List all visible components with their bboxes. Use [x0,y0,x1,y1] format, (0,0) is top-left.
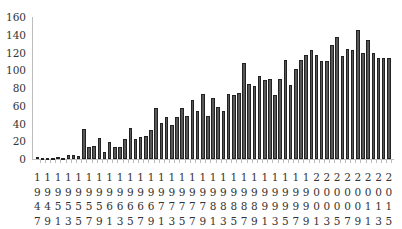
x-tick-mark [117,160,118,163]
bar-2014 [382,58,386,159]
y-tick-label: 160 [0,12,26,22]
bar-1997 [294,69,298,159]
y-tick-label: 0 [0,154,26,164]
x-tick-label: 2 0 1 1 [363,170,373,228]
x-tick-mark [252,160,253,163]
bar-1957 [87,147,91,159]
x-tick-mark [159,160,160,163]
bar-1973 [170,125,174,159]
x-tick-mark [128,160,129,163]
x-tick-mark [366,160,367,163]
x-tick-mark [205,160,206,163]
bar-1972 [165,117,169,159]
x-tick-mark [164,160,165,163]
bar-1996 [289,85,293,159]
x-tick-label: 1 9 9 3 [270,170,280,228]
x-tick-label: 1 9 4 9 [43,170,53,228]
bar-1956 [82,129,86,159]
x-tick-mark [107,160,108,163]
bar-1961 [108,142,112,159]
bar-1970 [154,108,158,159]
bar-2015 [387,58,391,159]
x-tick-mark [45,160,46,163]
bar-1983 [222,111,226,159]
x-tick-label: 1 9 6 7 [136,170,146,228]
x-tick-mark [355,160,356,163]
bar-1994 [278,79,282,159]
bar-2009 [356,30,360,159]
bar-1962 [113,147,117,159]
x-tick-label: 1 9 9 9 [301,170,311,228]
x-tick-label: 1 9 5 7 [84,170,94,228]
x-tick-label: 1 9 4 7 [32,170,42,228]
x-tick-mark [381,160,382,163]
x-tick-mark [138,160,139,163]
x-tick-mark [386,160,387,163]
bar-1991 [263,80,267,159]
bar-2006 [341,56,345,159]
y-tick-label: 100 [0,65,26,75]
bar-1950 [51,158,55,160]
x-tick-mark [262,160,263,163]
bar-2013 [377,58,381,159]
x-tick-label: 1 9 9 1 [260,170,270,228]
y-axis-line [32,17,33,160]
x-tick-mark [226,160,227,163]
x-tick-label: 1 9 6 1 [105,170,115,228]
x-tick-mark [92,160,93,163]
x-tick-label: 1 9 7 5 [177,170,187,228]
bar-1978 [196,111,200,159]
bar-1954 [72,155,76,159]
y-tick-label: 140 [0,30,26,40]
x-tick-mark [303,160,304,163]
y-tick-label: 60 [0,101,26,111]
x-tick-mark [148,160,149,163]
x-tick-mark [221,160,222,163]
bar-2008 [351,50,355,159]
x-tick-mark [231,160,232,163]
x-tick-label: 1 9 7 7 [187,170,197,228]
x-tick-mark [293,160,294,163]
x-tick-mark [66,160,67,163]
x-tick-label: 1 9 8 3 [218,170,228,228]
x-tick-mark [309,160,310,163]
x-tick-mark [257,160,258,163]
x-tick-mark [283,160,284,163]
x-tick-mark [40,160,41,163]
bar-1985 [232,95,236,159]
x-tick-label: 2 0 0 5 [332,170,342,228]
bar-2012 [372,53,376,160]
x-tick-mark [345,160,346,163]
bar-1998 [299,60,303,159]
x-tick-mark [190,160,191,163]
x-tick-label: 1 9 7 3 [167,170,177,228]
x-tick-mark [288,160,289,163]
x-tick-mark [371,160,372,163]
x-tick-label: 1 9 5 9 [94,170,104,228]
x-tick-label: 1 9 8 9 [249,170,259,228]
bar-1949 [46,158,50,160]
bar-1999 [304,55,308,159]
x-tick-mark [200,160,201,163]
x-tick-mark [195,160,196,163]
x-tick-mark [340,160,341,163]
x-tick-mark [97,160,98,163]
x-tick-mark [60,160,61,163]
x-tick-label: 1 9 5 1 [53,170,63,228]
x-tick-label: 1 9 8 5 [229,170,239,228]
x-tick-mark [319,160,320,163]
y-tick-label: 80 [0,83,26,93]
bar-1984 [227,94,231,159]
x-tick-mark [112,160,113,163]
bar-1975 [180,108,184,159]
x-tick-label: 2 0 1 5 [384,170,394,228]
bar-1964 [123,139,127,159]
x-tick-label: 1 9 7 9 [198,170,208,228]
bar-1959 [98,138,102,159]
x-tick-label: 1 9 8 7 [239,170,249,228]
x-tick-mark [174,160,175,163]
bar-1974 [175,117,179,159]
x-tick-mark [143,160,144,163]
x-tick-label: 1 9 6 9 [146,170,156,228]
x-tick-mark [236,160,237,163]
